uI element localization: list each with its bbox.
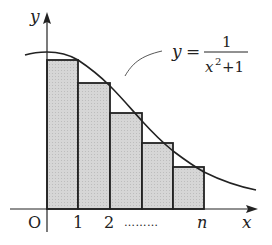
tick-label-n: n (197, 213, 207, 232)
tick-label-2: 2 (104, 213, 114, 232)
rect-4 (142, 143, 173, 209)
rect-5 (173, 167, 204, 209)
equation-label: y = 1 x 2 +1 (171, 33, 248, 76)
svg-text:=: = (186, 41, 200, 61)
rect-1 (47, 60, 78, 209)
y-axis-label: y (29, 6, 40, 26)
leader-line (125, 51, 162, 76)
svg-text:+1: +1 (222, 58, 244, 76)
svg-text:x: x (205, 58, 214, 76)
riemann-sum-diagram: y x O 1 2 ……… n y = 1 x 2 +1 (0, 0, 272, 245)
x-axis-label: x (242, 212, 252, 232)
tick-label-1: 1 (73, 213, 83, 232)
svg-text:y: y (171, 41, 182, 61)
diagram-canvas: y x O 1 2 ……… n y = 1 x 2 +1 (0, 0, 272, 245)
rectangles (47, 60, 204, 209)
origin-label: O (28, 213, 41, 232)
svg-text:2: 2 (215, 56, 221, 67)
rect-2 (78, 83, 110, 209)
tick-ellipsis: ……… (124, 216, 159, 229)
rect-3 (110, 113, 142, 209)
svg-text:1: 1 (222, 33, 232, 51)
